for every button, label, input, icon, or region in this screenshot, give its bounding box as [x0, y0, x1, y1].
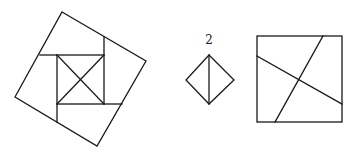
diamond-figure: 2 — [186, 33, 234, 104]
pinwheel-figure — [15, 12, 146, 146]
diagram-canvas: 2 — [0, 0, 355, 154]
diamond-label: 2 — [205, 33, 213, 47]
cut-line — [275, 36, 323, 122]
cut-lines — [257, 36, 342, 122]
inner-diagonals — [57, 55, 104, 104]
diamond-shape — [186, 55, 234, 104]
cut-line — [257, 56, 342, 104]
cut-square-figure — [257, 36, 342, 122]
